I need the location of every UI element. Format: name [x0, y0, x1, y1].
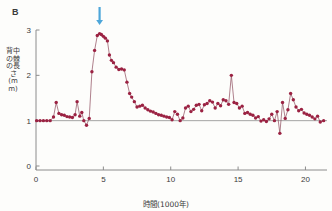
data-point	[257, 115, 260, 118]
x-tick-label-10: 10	[166, 175, 175, 184]
data-point	[93, 49, 96, 52]
data-point	[187, 104, 190, 107]
data-point	[35, 119, 38, 122]
data-point	[273, 119, 276, 122]
x-tick-label-15: 15	[234, 175, 243, 184]
data-point	[75, 100, 78, 103]
data-point	[181, 116, 184, 119]
data-point	[197, 103, 200, 106]
data-point	[48, 119, 51, 122]
data-point	[316, 114, 319, 117]
data-point	[289, 92, 292, 95]
data-point	[205, 102, 208, 105]
data-point	[192, 108, 195, 111]
x-axis-title: 時間(1000年)	[0, 198, 332, 209]
data-point	[275, 110, 278, 113]
data-point	[286, 108, 289, 111]
data-point	[78, 114, 81, 117]
data-point	[216, 102, 219, 105]
data-point	[270, 113, 273, 116]
data-point	[55, 101, 58, 104]
data-point	[130, 95, 133, 98]
data-point	[240, 104, 243, 107]
data-point	[73, 113, 76, 116]
data-point	[284, 117, 287, 120]
data-point	[322, 119, 325, 122]
data-point	[211, 100, 214, 103]
data-point	[45, 119, 48, 122]
data-point	[104, 36, 107, 39]
y-tick-label-0: 0	[27, 162, 32, 171]
x-tick-label-0: 0	[34, 175, 39, 184]
data-point	[42, 119, 45, 122]
data-point	[114, 65, 117, 68]
data-point	[52, 115, 55, 118]
data-point	[168, 116, 171, 119]
data-point	[112, 61, 115, 64]
data-point	[213, 106, 216, 109]
data-point	[125, 80, 128, 83]
x-tick-label-20: 20	[301, 175, 310, 184]
data-point	[82, 119, 85, 122]
tick-label-layer: 012305101520	[27, 26, 311, 184]
data-point	[294, 105, 297, 108]
data-point	[235, 102, 238, 105]
chart-canvas: B 012305101520	[0, 0, 332, 211]
data-point	[71, 116, 74, 119]
data-point	[319, 120, 322, 123]
arrow-head	[96, 20, 103, 25]
data-point	[173, 110, 176, 113]
data-point	[133, 100, 136, 103]
data-point	[281, 101, 284, 104]
data-point	[219, 104, 222, 107]
y-tick-label-1: 1	[27, 117, 32, 126]
data-point	[251, 114, 254, 117]
y-tick-label-2: 2	[27, 71, 32, 80]
data-point	[88, 117, 91, 120]
x-tick-label-5: 5	[101, 175, 106, 184]
series-line-0	[37, 34, 324, 134]
data-point	[267, 117, 270, 120]
data-point	[170, 118, 173, 121]
panel-label: B	[12, 7, 19, 17]
data-point	[300, 108, 303, 111]
annotation-arrow-layer	[96, 7, 103, 25]
data-point	[313, 117, 316, 120]
panel-label-group: B	[12, 7, 19, 17]
data-point	[128, 92, 131, 95]
data-point	[230, 74, 233, 77]
data-point	[227, 103, 230, 106]
data-point	[200, 109, 203, 112]
y-tick-label-3: 3	[27, 26, 32, 35]
data-point	[265, 120, 268, 123]
axis-layer	[36, 30, 327, 170]
data-point	[106, 39, 109, 42]
data-point	[85, 124, 88, 127]
data-point	[38, 119, 41, 122]
data-point	[292, 98, 295, 101]
data-point	[224, 99, 227, 102]
data-point	[123, 68, 126, 71]
figure-panel-b: B 012305101520 背中の棘の長さ(mm) 時間(1000年)	[0, 0, 332, 211]
data-point	[189, 110, 192, 113]
data-point	[80, 111, 83, 114]
y-axis-title: 背中の棘の長さ(mm)	[6, 48, 20, 94]
data-point	[176, 113, 179, 116]
data-point	[90, 70, 93, 73]
data-point	[108, 53, 111, 56]
data-point	[278, 132, 281, 135]
data-point	[141, 104, 144, 107]
data-point	[178, 119, 181, 122]
data-series-layer	[35, 32, 325, 135]
